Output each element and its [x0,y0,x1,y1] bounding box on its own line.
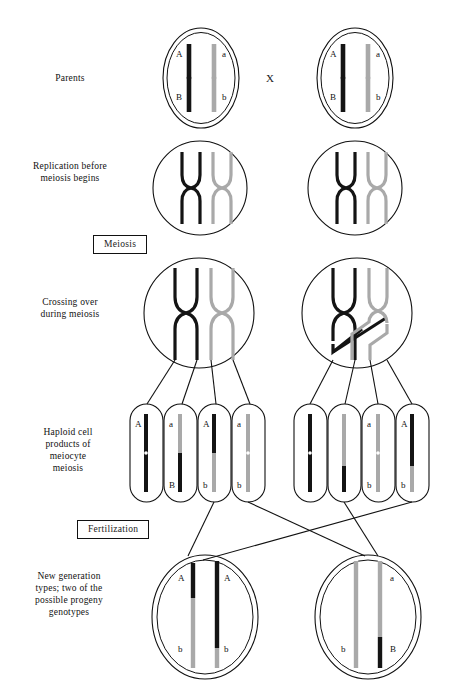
allele-progeny-left-chr1-bottom: b [178,645,183,654]
allele-parent-right-b: b [376,93,381,102]
allele-parent-right-B: B [330,93,336,102]
progeny-cell-left [152,555,258,679]
allele-gamete-3-top: A [203,420,210,429]
allele-gamete-7-top: a [367,420,371,429]
allele-parent-right-A: A [330,50,337,59]
allele-gamete-2-top: a [169,420,173,429]
replicated-cell-left [153,141,247,235]
connectors-left-meiosis-to-gametes [147,360,250,404]
allele-progeny-right-chr1-bottom: b [341,645,346,654]
allele-progeny-right-chr2-top: a [390,574,394,583]
diagram-canvas: .cellline{fill:none;stroke:#111;stroke-w… [0,0,459,699]
allele-gamete-4-top: a [237,420,241,429]
allele-parent-right-a: a [376,50,380,59]
gamete-5 [294,404,327,502]
connectors-right-meiosis-to-gametes [310,360,412,404]
allele-progeny-left-chr1-top: A [178,574,185,583]
allele-parent-left-B: B [176,93,182,102]
allele-progeny-left-chr2-top: A [224,574,231,583]
gamete-6 [328,404,361,502]
meiosis-diagram-figure: Parents Replication before meiosis begin… [0,0,459,699]
allele-gamete-7-bottom: b [367,481,372,490]
fertilization-connectors [188,502,412,560]
allele-progeny-right-chr2-bottom: B [390,645,396,654]
allele-gamete-8-bottom: b [401,481,406,490]
allele-parent-left-a: a [222,50,226,59]
allele-gamete-2-bottom: B [169,481,175,490]
allele-gamete-1-top: A [135,420,142,429]
parent-cell-left [163,28,239,128]
progeny-cell-right [315,555,421,679]
meiocyte-left [144,258,254,368]
parent-cell-right [317,28,393,128]
replicated-cell-right [308,141,402,235]
meiocyte-right [302,258,412,368]
allele-gamete-4-bottom: b [237,481,242,490]
allele-gamete-3-bottom: b [203,481,208,490]
allele-parent-left-b: b [222,93,227,102]
allele-gamete-8-top: A [401,420,408,429]
allele-parent-left-A: A [176,50,183,59]
allele-progeny-left-chr2-bottom: b [224,645,229,654]
